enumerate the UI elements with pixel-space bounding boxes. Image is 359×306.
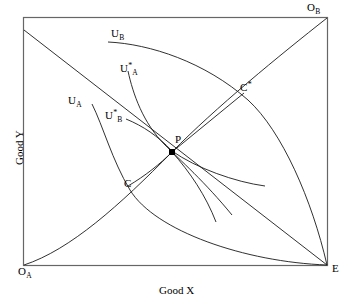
point-e-label: E — [332, 263, 339, 274]
indifference-curve-ub — [108, 42, 327, 265]
origin-b-label: OB — [307, 2, 320, 13]
edgeworth-box-figure: OA OB P E C C* UA UB U*A U*B Good Y Good… — [0, 0, 359, 306]
offer-curve-inner — [172, 152, 216, 222]
x-axis-title: Good X — [159, 285, 194, 296]
curve-label-ub: UB — [111, 28, 124, 39]
curve-label-ua: UA — [68, 95, 81, 106]
curve-label-ua-star: U*A — [120, 63, 137, 74]
point-c-star-label: C* — [240, 82, 251, 93]
curve-label-ub-star: U*B — [105, 110, 122, 121]
exchange-path-lower — [128, 152, 172, 186]
price-line — [24, 30, 327, 265]
point-c-label: C — [124, 178, 131, 189]
exchange-path-upper — [172, 93, 244, 152]
point-p-marker — [169, 149, 175, 155]
y-axis-title: Good Y — [14, 130, 25, 165]
diagram-canvas — [0, 0, 359, 306]
point-p-label: P — [175, 134, 181, 145]
origin-a-label: OA — [18, 266, 31, 277]
